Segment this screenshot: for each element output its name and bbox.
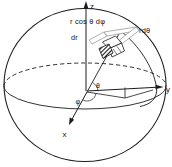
theta-angle-label: θ xyxy=(96,82,100,89)
phi-angle-label: φ xyxy=(76,98,81,106)
azimuthal-arc-label: r cos θ dφ xyxy=(70,17,105,26)
radial-edge-label: dr xyxy=(71,33,78,42)
x-axis xyxy=(71,92,87,121)
y-axis-label: y xyxy=(166,85,170,94)
phi-angle-arc xyxy=(83,93,96,101)
equator-back-dashed xyxy=(4,63,166,86)
z-axis-label: z xyxy=(90,2,94,11)
x-axis-arrow-icon xyxy=(69,118,74,126)
wedge-chord xyxy=(125,90,153,98)
x-axis-label: x xyxy=(63,130,67,139)
polar-arc-label: rdθ xyxy=(139,26,150,35)
equator-front xyxy=(4,86,166,109)
projection-line xyxy=(87,92,125,98)
y-axis-arrow-icon xyxy=(156,85,164,90)
z-axis-arrow-icon xyxy=(84,1,89,9)
spherical-coordinates-diagram: z y x r cos θ dφ dr rdθ θ φ xyxy=(0,0,172,167)
diagram-canvas: z y x r cos θ dφ dr rdθ θ φ xyxy=(0,0,172,167)
